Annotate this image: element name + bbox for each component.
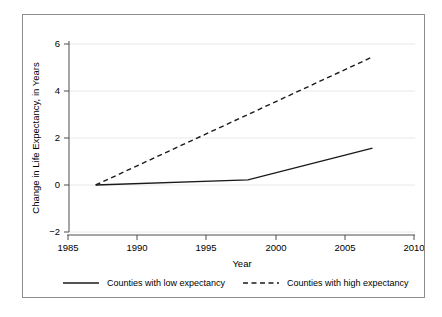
y-tick-label-minus2: −2: [49, 226, 60, 237]
x-tick-label-1985: 1985: [57, 242, 78, 253]
y-tick-label-0: 0: [55, 179, 60, 190]
y-tick-label-2: 2: [55, 132, 60, 143]
data-series-group: [96, 57, 373, 185]
x-tick-label-1990: 1990: [126, 242, 147, 253]
legend: Counties with low expectancy Counties wi…: [63, 278, 409, 288]
x-tick-label-2000: 2000: [265, 242, 286, 253]
gridlines: [69, 44, 415, 232]
x-tick-label-2010: 2010: [403, 242, 424, 253]
y-axis: [64, 41, 69, 232]
legend-label-low-expectancy: Counties with low expectancy: [107, 278, 226, 288]
y-tick-label-6: 6: [55, 38, 60, 49]
line-chart: 6 4 2 0 −2 Change in Life Expectancy, in…: [23, 15, 424, 297]
y-tick-labels: 6 4 2 0 −2: [49, 38, 60, 237]
x-axis: [67, 235, 415, 240]
y-axis-title: Change in Life Expectancy, in Years: [30, 62, 41, 214]
series-line-high-expectancy: [96, 57, 373, 185]
x-tick-label-1995: 1995: [195, 242, 216, 253]
chart-frame: 6 4 2 0 −2 Change in Life Expectancy, in…: [22, 14, 425, 298]
x-tick-label-2005: 2005: [334, 242, 355, 253]
x-tick-labels: 1985 1990 1995 2000 2005 2010: [57, 242, 424, 253]
y-tick-label-4: 4: [55, 85, 60, 96]
x-axis-title: Year: [232, 258, 251, 269]
figure-canvas: 6 4 2 0 −2 Change in Life Expectancy, in…: [0, 0, 442, 317]
legend-label-high-expectancy: Counties with high expectancy: [287, 278, 409, 288]
